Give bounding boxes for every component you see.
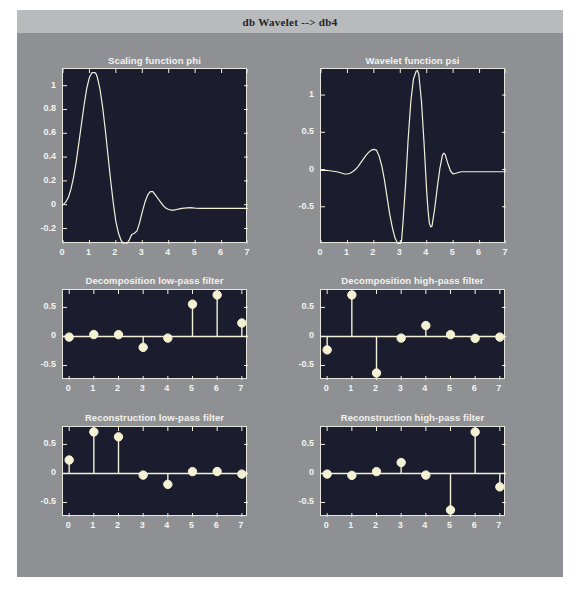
- x-tick-label: 3: [398, 520, 403, 530]
- figure-window: db Wavelet --> db4 Scaling function phi-…: [17, 10, 563, 577]
- y-tick-label: 1: [18, 80, 56, 90]
- y-tick-label: -0.5: [18, 496, 56, 506]
- x-tick-label: 6: [472, 520, 477, 530]
- y-tick-label: -0.2: [18, 223, 56, 233]
- x-tick-label: 1: [348, 520, 353, 530]
- y-tick-label: 0: [18, 330, 56, 340]
- x-tick-label: 3: [139, 247, 144, 257]
- y-tick-label: 0: [276, 330, 314, 340]
- x-tick-label: 4: [164, 383, 169, 393]
- y-tick-label: 0.4: [18, 151, 56, 161]
- x-tick-label: 7: [238, 520, 243, 530]
- x-tick-label: 3: [397, 247, 402, 257]
- x-tick-label: 5: [450, 247, 455, 257]
- y-tick-label: 0: [276, 467, 314, 477]
- plot-axes-scaling-function-phi: [62, 68, 247, 243]
- x-tick-label: 5: [447, 520, 452, 530]
- y-tick-label: -0.5: [276, 201, 314, 211]
- plot-title-wavelet-function-psi: Wavelet function psi: [320, 55, 505, 66]
- x-tick-label: 2: [115, 520, 120, 530]
- y-tick-label: -0.5: [276, 496, 314, 506]
- x-tick-label: 3: [140, 383, 145, 393]
- x-tick-label: 7: [244, 247, 249, 257]
- plot-title-reconstruction-high-pass-filter: Reconstruction high-pass filter: [320, 412, 505, 423]
- x-tick-label: 2: [115, 383, 120, 393]
- x-tick-label: 4: [423, 247, 428, 257]
- y-tick-label: -0.5: [18, 359, 56, 369]
- x-tick-label: 1: [90, 520, 95, 530]
- x-tick-label: 4: [422, 520, 427, 530]
- y-tick-label: 0.5: [276, 301, 314, 311]
- x-tick-label: 1: [90, 383, 95, 393]
- y-tick-label: 0: [18, 199, 56, 209]
- y-tick-label: 0.8: [18, 103, 56, 113]
- plot-title-decomposition-high-pass-filter: Decomposition high-pass filter: [320, 275, 505, 286]
- x-tick-label: 3: [398, 383, 403, 393]
- x-tick-label: 2: [370, 247, 375, 257]
- x-tick-label: 6: [472, 383, 477, 393]
- x-tick-label: 0: [317, 247, 322, 257]
- x-tick-label: 5: [447, 383, 452, 393]
- x-tick-label: 4: [164, 520, 169, 530]
- x-tick-label: 6: [214, 383, 219, 393]
- y-tick-label: 0.5: [18, 301, 56, 311]
- x-tick-label: 0: [59, 247, 64, 257]
- x-tick-label: 0: [66, 383, 71, 393]
- plot-axes-decomposition-high-pass-filter: [320, 289, 505, 379]
- x-tick-label: 5: [192, 247, 197, 257]
- x-tick-label: 2: [112, 247, 117, 257]
- x-tick-label: 7: [496, 383, 501, 393]
- y-tick-label: -0.5: [276, 359, 314, 369]
- x-tick-label: 7: [502, 247, 507, 257]
- x-tick-label: 6: [218, 247, 223, 257]
- x-tick-label: 0: [66, 520, 71, 530]
- y-tick-label: 1: [276, 89, 314, 99]
- plot-axes-wavelet-function-psi: [320, 68, 505, 243]
- x-tick-label: 1: [344, 247, 349, 257]
- y-tick-label: 0: [18, 467, 56, 477]
- x-tick-label: 3: [140, 520, 145, 530]
- x-tick-label: 1: [348, 383, 353, 393]
- plot-title-scaling-function-phi: Scaling function phi: [62, 55, 247, 66]
- y-tick-label: 0.5: [276, 126, 314, 136]
- y-tick-label: 0.6: [18, 127, 56, 137]
- y-tick-label: 0.2: [18, 175, 56, 185]
- figure-title-bar: db Wavelet --> db4: [17, 10, 563, 33]
- figure-body: Scaling function phi-0.200.20.40.60.8101…: [17, 33, 563, 577]
- x-tick-label: 6: [476, 247, 481, 257]
- x-tick-label: 2: [373, 383, 378, 393]
- x-tick-label: 2: [373, 520, 378, 530]
- x-tick-label: 1: [86, 247, 91, 257]
- x-tick-label: 7: [238, 383, 243, 393]
- y-tick-label: 0.5: [18, 438, 56, 448]
- x-tick-label: 5: [189, 520, 194, 530]
- x-tick-label: 4: [422, 383, 427, 393]
- y-tick-label: 0.5: [276, 438, 314, 448]
- plot-title-reconstruction-low-pass-filter: Reconstruction low-pass filter: [62, 412, 247, 423]
- x-tick-label: 4: [165, 247, 170, 257]
- y-tick-label: 0: [276, 164, 314, 174]
- x-tick-label: 5: [189, 383, 194, 393]
- x-tick-label: 0: [324, 520, 329, 530]
- x-tick-label: 6: [214, 520, 219, 530]
- x-tick-label: 7: [496, 520, 501, 530]
- plot-title-decomposition-low-pass-filter: Decomposition low-pass filter: [62, 275, 247, 286]
- plot-axes-reconstruction-high-pass-filter: [320, 426, 505, 516]
- figure-title: db Wavelet --> db4: [243, 16, 338, 28]
- x-tick-label: 0: [324, 383, 329, 393]
- plot-axes-decomposition-low-pass-filter: [62, 289, 247, 379]
- plot-axes-reconstruction-low-pass-filter: [62, 426, 247, 516]
